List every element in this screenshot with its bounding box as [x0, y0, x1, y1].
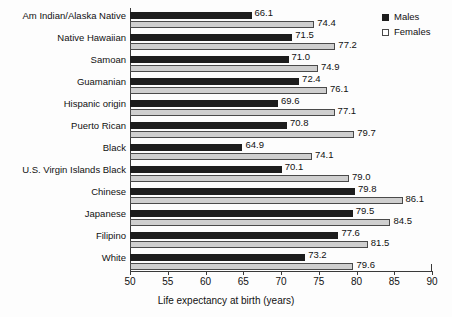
bar-male: [130, 34, 292, 41]
bar-value-female: 84.5: [393, 216, 412, 226]
chart-container: Am Indian/Alaska NativeNative HawaiianSa…: [0, 0, 452, 317]
bar-value-male: 64.9: [245, 140, 264, 150]
x-tick: [394, 271, 395, 275]
x-tick: [243, 271, 244, 275]
x-tick-label: 75: [313, 277, 324, 287]
bar-female: [130, 43, 335, 50]
x-tick: [206, 271, 207, 275]
category-label: Filipino: [0, 231, 126, 241]
category-label: Am Indian/Alaska Native: [0, 11, 126, 21]
bar-female: [130, 175, 349, 182]
chart-bar-group: 64.974.1: [130, 140, 432, 162]
legend-label-males: Males: [394, 12, 419, 22]
category-label: Puerto Rican: [0, 121, 126, 131]
bar-value-female: 79.0: [352, 172, 371, 182]
bar-value-female: 77.1: [338, 106, 357, 116]
chart-bar-group: 73.279.6: [130, 250, 432, 272]
category-label: Samoan: [0, 55, 126, 65]
bar-male: [130, 144, 242, 151]
category-label: Black: [0, 143, 126, 153]
bar-male: [130, 188, 355, 195]
chart-bar-group: 71.074.9: [130, 52, 432, 74]
bar-female: [130, 197, 403, 204]
legend-swatch-females-icon: [382, 29, 389, 36]
x-tick-label: 85: [389, 277, 400, 287]
legend-item-males: Males: [382, 12, 430, 22]
x-tick-label: 90: [426, 277, 437, 287]
bar-female: [130, 109, 335, 116]
x-tick-label: 80: [351, 277, 362, 287]
bar-value-female: 79.7: [357, 128, 376, 138]
x-tick-label: 70: [275, 277, 286, 287]
category-label: Japanese: [0, 209, 126, 219]
bar-value-female: 81.5: [371, 238, 390, 248]
bar-value-female: 74.9: [321, 62, 340, 72]
bar-value-male: 72.4: [302, 74, 321, 84]
category-label: U.S. Virgin Islands Black: [0, 165, 126, 175]
category-label: Chinese: [0, 187, 126, 197]
x-tick: [319, 271, 320, 275]
bar-value-male: 77.6: [341, 228, 360, 238]
bar-value-female: 74.1: [315, 150, 334, 160]
x-tick: [168, 271, 169, 275]
category-label: Hispanic origin: [0, 99, 126, 109]
bar-male: [130, 56, 289, 63]
bar-female: [130, 21, 314, 28]
bar-male: [130, 122, 287, 129]
bar-value-male: 70.8: [290, 118, 309, 128]
chart-bar-group: 70.179.0: [130, 162, 432, 184]
chart-bar-group: 77.681.5: [130, 228, 432, 250]
x-tick: [432, 271, 433, 275]
bar-male: [130, 78, 299, 85]
bar-value-female: 86.1: [406, 194, 425, 204]
bar-value-male: 70.1: [285, 162, 304, 172]
category-label: Guamanian: [0, 77, 126, 87]
plot-area: 66.174.471.577.271.074.972.476.169.677.1…: [130, 8, 432, 272]
legend-label-females: Females: [394, 27, 430, 37]
bar-female: [130, 87, 327, 94]
x-tick: [357, 271, 358, 275]
chart-legend: Males Females: [382, 12, 430, 42]
bar-value-male: 71.5: [295, 30, 314, 40]
bar-value-female: 79.6: [356, 260, 375, 270]
chart-bar-group: 79.584.5: [130, 206, 432, 228]
chart-bar-group: 69.677.1: [130, 96, 432, 118]
bar-male: [130, 254, 305, 261]
x-tick: [130, 271, 131, 275]
bar-male: [130, 100, 278, 107]
x-axis-title: Life expectancy at birth (years): [0, 295, 452, 306]
bar-female: [130, 65, 318, 72]
x-tick-label: 60: [200, 277, 211, 287]
bar-value-female: 76.1: [330, 84, 349, 94]
bar-value-male: 69.6: [281, 96, 300, 106]
legend-item-females: Females: [382, 27, 430, 37]
bar-value-female: 77.2: [338, 40, 357, 50]
bar-female: [130, 219, 390, 226]
x-tick: [281, 271, 282, 275]
bar-value-male: 66.1: [255, 8, 274, 18]
bar-female: [130, 263, 353, 270]
bar-value-male: 79.8: [358, 184, 377, 194]
chart-bar-group: 79.886.1: [130, 184, 432, 206]
bar-female: [130, 241, 368, 248]
x-tick-label: 50: [124, 277, 135, 287]
bar-male: [130, 232, 338, 239]
bar-value-male: 79.5: [356, 206, 375, 216]
bar-value-male: 73.2: [308, 250, 327, 260]
bar-male: [130, 166, 282, 173]
legend-swatch-males-icon: [382, 14, 389, 21]
bar-female: [130, 153, 312, 160]
chart-bar-group: 72.476.1: [130, 74, 432, 96]
x-tick-label: 55: [162, 277, 173, 287]
category-label: Native Hawaiian: [0, 33, 126, 43]
category-label: White: [0, 253, 126, 263]
bar-male: [130, 210, 353, 217]
bar-female: [130, 131, 354, 138]
bar-value-male: 71.0: [292, 52, 311, 62]
bar-male: [130, 12, 252, 19]
x-tick-label: 65: [238, 277, 249, 287]
bar-value-female: 74.4: [317, 18, 336, 28]
chart-bar-group: 70.879.7: [130, 118, 432, 140]
